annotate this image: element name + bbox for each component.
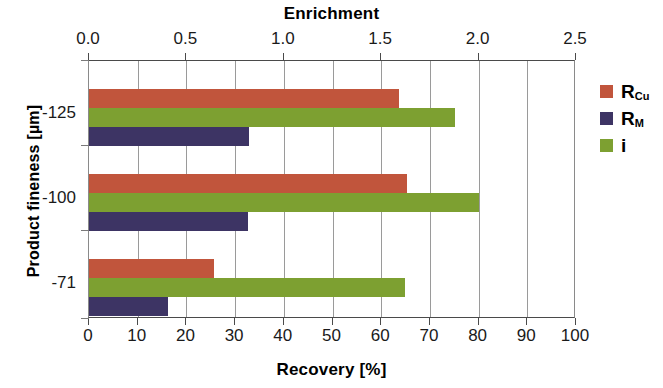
bar-rm-125 xyxy=(89,127,249,146)
legend-sublabel: Cu xyxy=(635,90,650,102)
gridline xyxy=(479,61,480,317)
bar-rm-71 xyxy=(89,297,168,316)
bottom-axis-tick xyxy=(380,318,381,325)
legend-sublabel: M xyxy=(635,117,644,129)
bottom-axis-tick xyxy=(88,318,89,325)
bottom-axis-tick xyxy=(575,318,576,325)
legend-item: RM xyxy=(600,105,663,132)
legend-label: i xyxy=(621,136,626,155)
top-axis-tick-label: 2.0 xyxy=(448,29,508,49)
bottom-axis-tick xyxy=(332,318,333,325)
bottom-axis-tick xyxy=(234,318,235,325)
bar-rcu-125 xyxy=(89,89,399,108)
plot-area xyxy=(88,60,575,318)
bar-i-125 xyxy=(89,108,455,127)
gridline xyxy=(430,61,431,317)
top-axis-tick xyxy=(478,53,479,60)
y-axis-tick xyxy=(81,318,89,319)
bar-i-100 xyxy=(89,193,479,212)
bar-rcu-100 xyxy=(89,174,407,193)
legend-label: RM xyxy=(621,109,644,128)
legend-label: RCu xyxy=(621,82,649,101)
legend-swatch xyxy=(600,112,613,125)
bar-rcu-71 xyxy=(89,259,214,278)
chart-legend: RCuRMi xyxy=(600,78,663,159)
legend-swatch xyxy=(600,85,613,98)
y-axis-tick xyxy=(81,230,89,231)
bottom-axis-tick xyxy=(429,318,430,325)
legend-item: RCu xyxy=(600,78,663,105)
bar-rm-100 xyxy=(89,212,248,231)
bottom-axis-tick xyxy=(185,318,186,325)
bottom-axis-tick xyxy=(283,318,284,325)
bottom-axis-tick-label: 100 xyxy=(545,326,605,346)
legend-swatch xyxy=(600,139,613,152)
bottom-axis-tick xyxy=(137,318,138,325)
bottom-axis-tick xyxy=(526,318,527,325)
top-axis-tick-label: 1.0 xyxy=(253,29,313,49)
top-axis-tick xyxy=(88,53,89,60)
top-axis-title: Enrichment xyxy=(0,4,663,24)
category-label-71: -71 xyxy=(12,273,76,293)
top-axis-tick-label: 0.0 xyxy=(58,29,118,49)
top-axis-tick xyxy=(283,53,284,60)
legend-item: i xyxy=(600,132,663,159)
chart-figure: Enrichment Product fineness [µm] Recover… xyxy=(0,0,663,388)
category-label-125: -125 xyxy=(12,103,76,123)
top-axis-tick xyxy=(575,53,576,60)
bar-i-71 xyxy=(89,278,405,297)
category-label-100: -100 xyxy=(12,188,76,208)
bottom-axis-tick xyxy=(478,318,479,325)
top-axis-tick-label: 1.5 xyxy=(350,29,410,49)
y-axis-tick xyxy=(81,60,89,61)
bottom-axis-title: Recovery [%] xyxy=(0,360,663,380)
top-axis-tick xyxy=(185,53,186,60)
gridline xyxy=(527,61,528,317)
top-axis-tick-label: 0.5 xyxy=(155,29,215,49)
top-axis-tick xyxy=(380,53,381,60)
top-axis-tick-label: 2.5 xyxy=(545,29,605,49)
y-axis-tick xyxy=(81,145,89,146)
